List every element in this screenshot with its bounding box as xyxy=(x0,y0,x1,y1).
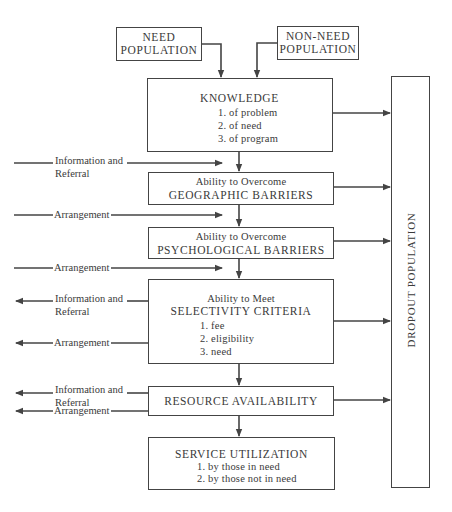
knowledge-box: KNOWLEDGE 1. of problem 2. of need 3. of… xyxy=(147,78,333,152)
selectivity-criteria-box: Ability to Meet SELECTIVITY CRITERIA 1. … xyxy=(148,279,334,364)
info-referral-label-1: Information and Referral xyxy=(55,154,123,180)
knowledge-title: KNOWLEDGE xyxy=(200,92,279,105)
selectivity-item-1: 1. fee xyxy=(200,320,225,333)
info-referral-2-line1: Information and xyxy=(55,292,123,305)
info-referral-1-line2: Referral xyxy=(55,167,123,180)
info-referral-2-line2: Referral xyxy=(55,305,123,318)
non-need-population-line1: NON-NEED xyxy=(278,30,358,43)
non-need-population-box: NON-NEED POPULATION xyxy=(277,26,359,60)
service-utilization-box: SERVICE UTILIZATION 1. by those in need … xyxy=(148,437,335,490)
info-referral-3-line1: Information and xyxy=(55,383,123,396)
selectivity-title: SELECTIVITY CRITERIA xyxy=(149,305,333,318)
arrangement-label-4: Arrangement xyxy=(54,404,109,417)
knowledge-item-1: 1. of problem xyxy=(218,107,277,120)
selectivity-subtitle: Ability to Meet xyxy=(149,293,333,306)
psychological-title: PSYCHOLOGICAL BARRIERS xyxy=(149,244,333,257)
arrangement-label-1: Arrangement xyxy=(54,208,109,221)
service-title: SERVICE UTILIZATION xyxy=(149,448,334,461)
dropout-population-box: DROPOUT POPULATION xyxy=(391,76,430,488)
info-referral-label-2: Information and Referral xyxy=(55,292,123,318)
psychological-subtitle: Ability to Overcome xyxy=(149,231,333,244)
selectivity-item-3: 3. need xyxy=(200,346,232,359)
selectivity-item-2: 2. eligibility xyxy=(200,333,254,346)
resource-title: RESOURCE AVAILABILITY xyxy=(164,395,318,407)
geographic-barriers-box: Ability to Overcome GEOGRAPHIC BARRIERS xyxy=(148,172,334,205)
arrangement-label-2: Arrangement xyxy=(54,261,109,274)
need-population-line2: POPULATION xyxy=(117,44,201,57)
psychological-barriers-box: Ability to Overcome PSYCHOLOGICAL BARRIE… xyxy=(148,227,334,259)
knowledge-item-3: 3. of program xyxy=(218,133,278,146)
arrangement-label-3: Arrangement xyxy=(54,336,109,349)
service-item-1: 1. by those in need xyxy=(197,461,280,474)
need-population-line1: NEED xyxy=(117,31,201,44)
non-need-population-line2: POPULATION xyxy=(278,43,358,56)
dropout-title: DROPOUT POPULATION xyxy=(405,200,417,360)
geographic-title: GEOGRAPHIC BARRIERS xyxy=(149,189,333,202)
service-item-2: 2. by those not in need xyxy=(197,473,297,486)
need-population-box: NEED POPULATION xyxy=(116,27,202,61)
knowledge-item-2: 2. of need xyxy=(218,120,262,133)
geographic-subtitle: Ability to Overcome xyxy=(149,176,333,189)
resource-availability-box: RESOURCE AVAILABILITY xyxy=(148,386,334,416)
info-referral-1-line1: Information and xyxy=(55,154,123,167)
